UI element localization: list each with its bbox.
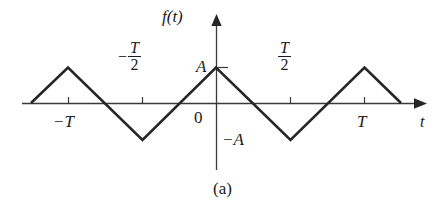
amplitude-negative-label: −A — [222, 131, 244, 148]
fraction: T 2 — [128, 40, 141, 74]
tick-label-T-over-2: T 2 — [278, 40, 291, 74]
tick-label-T: T — [357, 113, 366, 130]
tick-label-neg-T: −T — [53, 113, 74, 130]
fraction-numerator: T — [128, 40, 141, 56]
fraction-denominator: 2 — [279, 57, 291, 73]
y-axis — [211, 14, 221, 170]
fraction-denominator: 2 — [129, 57, 141, 73]
amplitude-positive-label: A — [196, 58, 206, 75]
figure-caption: (a) — [0, 179, 445, 199]
minus-sign: − — [118, 48, 127, 66]
x-axis-label: t — [420, 114, 424, 130]
tick-label-neg-T-over-2: − T 2 — [118, 40, 141, 74]
y-axis-label: f(t) — [162, 8, 183, 25]
fraction-numerator: T — [278, 40, 291, 56]
x-axis — [22, 98, 427, 109]
figure-container: f(t) A −A 0 −T T t − T 2 T 2 (a) — [0, 0, 445, 211]
fraction: T 2 — [278, 40, 291, 74]
origin-label: 0 — [194, 109, 203, 126]
